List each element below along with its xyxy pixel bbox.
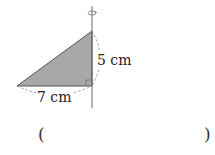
answer-open-paren: ( (38, 124, 45, 144)
right-triangle (17, 31, 92, 86)
answer-blank[interactable] (48, 126, 198, 146)
horizontal-leg-label: 7 cm (36, 89, 72, 105)
vertical-leg-label: 5 cm (97, 52, 131, 68)
answer-close-paren: ) (204, 124, 211, 144)
